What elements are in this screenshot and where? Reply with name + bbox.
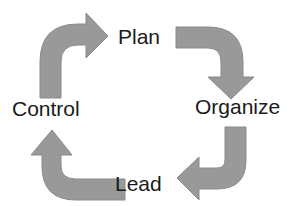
stage-label-plan: Plan <box>118 26 160 47</box>
stage-label-control: Control <box>12 98 80 119</box>
stage-label-lead: Lead <box>115 173 162 194</box>
arrow-organize-to-lead <box>177 127 246 200</box>
stage-label-organize: Organize <box>195 96 280 117</box>
cycle-diagram: Plan Organize Lead Control <box>0 0 290 206</box>
arrow-plan-to-organize <box>176 27 254 99</box>
arrow-control-to-plan <box>40 13 108 98</box>
arrow-lead-to-control <box>31 130 125 200</box>
